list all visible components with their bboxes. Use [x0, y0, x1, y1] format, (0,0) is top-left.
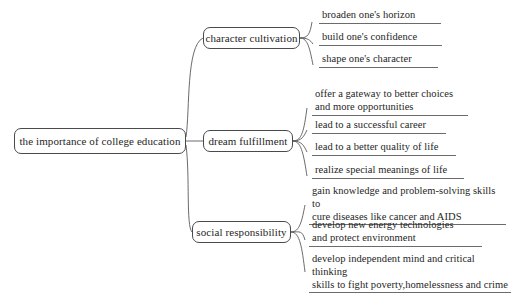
connector-branch-1-fan-2 [293, 141, 307, 152]
connector-branch-0-fan-1 [300, 38, 313, 44]
connector-branch-2-fan-2 [291, 232, 305, 272]
branch-node-label: character cultivation [205, 32, 297, 45]
connector-branch-1-fan-1 [293, 130, 307, 141]
leaf-node: build one's confidence [319, 31, 442, 46]
connector-branch-1-fan-3 [293, 141, 307, 176]
connector-root-to-branch-2 [186, 145, 192, 232]
connector-branch-0-fan-0 [300, 22, 312, 38]
connector-branch-0-fan-2 [300, 38, 313, 65]
leaf-node: develop new energy technologies and prot… [309, 219, 482, 247]
root-node-label: the importance of college education [19, 135, 180, 148]
branch-node-label: dream fulfillment [209, 135, 288, 148]
leaf-node: shape one's character [319, 53, 438, 68]
connector-branch-1-fan-0 [293, 108, 307, 141]
branch-node-social-responsibility[interactable]: social responsibility [192, 221, 291, 243]
connector-root-to-branch-0 [186, 38, 203, 137]
connector-branch-2-fan-0 [291, 205, 305, 232]
root-node[interactable]: the importance of college education [14, 128, 186, 154]
leaf-node: broaden one's horizon [319, 9, 441, 24]
connector-branch-2-fan-1 [291, 232, 305, 240]
leaf-node: lead to a successful career [312, 119, 446, 134]
branch-node-dream-fulfillment[interactable]: dream fulfillment [203, 130, 293, 152]
branch-node-character-cultivation[interactable]: character cultivation [203, 27, 300, 49]
mind-map-canvas: the importance of college education char… [0, 0, 525, 293]
leaf-node: realize special meanings of life [312, 164, 464, 179]
leaf-node: develop independent mind and critical th… [309, 253, 511, 293]
branch-node-label: social responsibility [196, 226, 286, 239]
leaf-node: offer a gateway to better choices and mo… [312, 88, 468, 116]
leaf-node: lead to a better quality of life [312, 141, 456, 156]
